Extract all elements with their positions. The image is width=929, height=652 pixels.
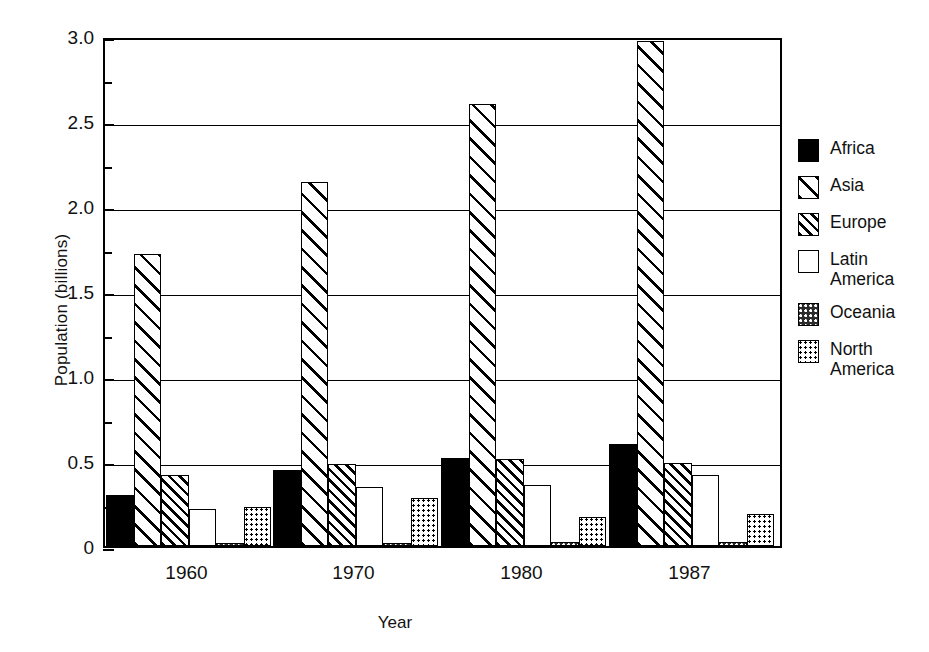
y-tick-label: 1.5 bbox=[36, 283, 94, 302]
x-axis-title: Year bbox=[0, 613, 790, 633]
bar bbox=[411, 498, 439, 546]
legend-item: North America bbox=[798, 339, 926, 379]
y-axis-major-tick bbox=[103, 39, 114, 41]
x-tick-label: 1987 bbox=[630, 562, 750, 584]
bar bbox=[496, 459, 524, 546]
legend-label: Asia bbox=[830, 175, 864, 195]
legend-label: Oceania bbox=[830, 302, 895, 322]
gridline bbox=[105, 380, 780, 381]
y-tick-label: 2.5 bbox=[36, 113, 94, 132]
y-axis-minor-tick bbox=[103, 167, 112, 169]
y-axis-tick-labels: 00.51.01.52.02.53.0 bbox=[30, 0, 94, 652]
bar bbox=[579, 517, 607, 546]
legend-swatch bbox=[798, 340, 819, 363]
bar bbox=[244, 507, 272, 546]
y-tick-label: 0.5 bbox=[36, 453, 94, 472]
bar bbox=[692, 475, 720, 546]
gridline bbox=[105, 125, 780, 126]
bar bbox=[301, 182, 329, 546]
legend-swatch bbox=[798, 303, 819, 326]
bar bbox=[664, 463, 692, 546]
plot-area bbox=[103, 38, 782, 548]
legend-swatch bbox=[798, 213, 819, 236]
bar bbox=[469, 104, 497, 546]
legend-label: Africa bbox=[830, 138, 875, 158]
y-tick-label: 1.0 bbox=[36, 368, 94, 387]
bar bbox=[719, 542, 747, 546]
bar bbox=[747, 514, 775, 546]
y-axis-minor-tick bbox=[103, 252, 112, 254]
plot-inner bbox=[105, 40, 780, 546]
legend-item: Latin America bbox=[798, 249, 926, 289]
population-bar-chart: Population (billions) 00.51.01.52.02.53.… bbox=[0, 0, 929, 652]
bar bbox=[273, 470, 301, 547]
bar bbox=[524, 485, 552, 546]
y-tick-label: 2.0 bbox=[36, 198, 94, 217]
y-axis-major-tick bbox=[103, 549, 114, 551]
bar bbox=[216, 543, 244, 546]
chart-legend: AfricaAsiaEuropeLatin AmericaOceaniaNort… bbox=[798, 138, 926, 392]
x-tick-label: 1970 bbox=[294, 562, 414, 584]
y-tick-label: 0 bbox=[36, 538, 94, 557]
y-axis-major-tick bbox=[103, 124, 114, 126]
gridline bbox=[105, 210, 780, 211]
bar bbox=[609, 444, 637, 546]
bar bbox=[189, 509, 217, 546]
legend-item: Africa bbox=[798, 138, 926, 162]
gridline bbox=[105, 295, 780, 296]
bar bbox=[637, 41, 665, 546]
y-axis-minor-tick bbox=[103, 422, 112, 424]
bar bbox=[161, 475, 189, 546]
bar bbox=[383, 543, 411, 546]
legend-item: Oceania bbox=[798, 302, 926, 326]
bar bbox=[106, 495, 134, 546]
bar bbox=[441, 458, 469, 546]
y-axis-major-tick bbox=[103, 464, 114, 466]
legend-item: Asia bbox=[798, 175, 926, 199]
y-axis-minor-tick bbox=[103, 337, 112, 339]
y-tick-label: 3.0 bbox=[36, 28, 94, 47]
y-axis-minor-tick bbox=[103, 82, 112, 84]
bar bbox=[551, 542, 579, 546]
bar bbox=[356, 487, 384, 547]
legend-label: North America bbox=[830, 339, 894, 379]
y-axis-major-tick bbox=[103, 379, 114, 381]
legend-item: Europe bbox=[798, 212, 926, 236]
legend-swatch bbox=[798, 250, 819, 273]
bar bbox=[328, 464, 356, 546]
legend-swatch bbox=[798, 139, 819, 162]
bar bbox=[134, 254, 162, 546]
legend-swatch bbox=[798, 176, 819, 199]
y-axis-major-tick bbox=[103, 209, 114, 211]
legend-label: Europe bbox=[830, 212, 886, 232]
y-axis-major-tick bbox=[103, 294, 114, 296]
legend-label: Latin America bbox=[830, 249, 894, 289]
x-tick-label: 1960 bbox=[127, 562, 247, 584]
x-tick-label: 1980 bbox=[462, 562, 582, 584]
